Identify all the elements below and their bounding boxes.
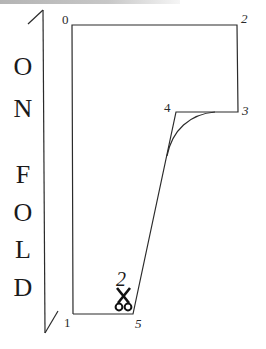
point-label-1: 1 [64, 316, 71, 329]
cut-count-label: 2 [116, 269, 126, 289]
pattern-diagram: O N F O L D 0 1 2 3 4 5 2 [0, 0, 266, 349]
fold-letter-o: O [12, 54, 34, 80]
fold-letter-f: F [12, 162, 34, 188]
fold-letter-l: L [12, 237, 34, 263]
fold-letter-n: N [12, 96, 34, 122]
fold-letter-d: D [12, 275, 34, 301]
point-label-3: 3 [242, 104, 249, 117]
fold-letter-o2: O [12, 200, 34, 226]
point-label-5: 5 [135, 317, 142, 330]
point-label-2: 2 [241, 12, 248, 25]
pattern-outline [72, 25, 238, 314]
point-label-0: 0 [62, 13, 69, 26]
point-label-4: 4 [164, 101, 171, 114]
scissors-icon [116, 288, 132, 310]
pattern-lines [0, 0, 266, 349]
